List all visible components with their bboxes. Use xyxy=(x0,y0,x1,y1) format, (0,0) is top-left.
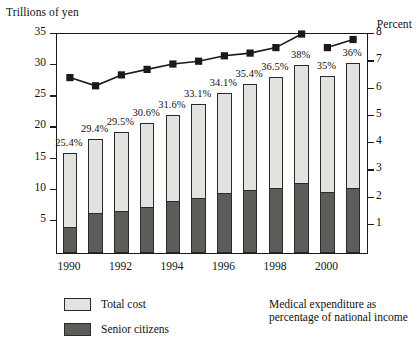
legend-label-line-2: percentage of national income xyxy=(269,311,408,324)
legend-swatch-senior-citizens xyxy=(64,323,91,336)
y-tick-label-left: 20 xyxy=(18,118,46,130)
y-tick-label-right: 4 xyxy=(376,134,402,146)
legend-swatch-total-cost xyxy=(64,298,91,311)
chart-root: Trillions of yen Percent 5101520253035 1… xyxy=(0,0,418,351)
y-tick-label-right: 1 xyxy=(376,216,402,228)
x-tick-label: 1996 xyxy=(201,260,245,272)
y-axis-title-left: Trillions of yen xyxy=(6,6,79,18)
y-tick-mark-right xyxy=(368,224,374,225)
legend-label-senior-citizens: Senior citizens xyxy=(101,323,169,336)
line-series-marker[interactable] xyxy=(92,82,99,89)
y-tick-mark-right xyxy=(368,197,374,198)
bar-value-label: 33.1% xyxy=(176,88,220,99)
bar-value-label: 35% xyxy=(304,60,348,71)
line-series-marker[interactable] xyxy=(247,50,254,57)
y-tick-label-left: 5 xyxy=(18,212,46,224)
x-tick-label: 1992 xyxy=(98,260,142,272)
legend-label-total-cost: Total cost xyxy=(101,298,146,311)
bar-value-label: 36% xyxy=(330,47,374,58)
line-series-marker[interactable] xyxy=(350,36,357,43)
line-series-marker[interactable] xyxy=(66,74,73,81)
y-tick-label-right: 5 xyxy=(376,107,402,119)
y-tick-label-right: 3 xyxy=(376,161,402,173)
legend: Total cost Senior citizens Medical expen… xyxy=(0,296,418,351)
y-tick-mark-right xyxy=(368,142,374,143)
y-tick-mark-right xyxy=(368,88,374,89)
y-tick-label-left: 35 xyxy=(18,25,46,37)
bar-value-label: 31.6% xyxy=(150,99,194,110)
y-tick-label-left: 25 xyxy=(18,87,46,99)
legend-label-medical-expenditure: Medical expenditure as percentage of nat… xyxy=(269,298,408,324)
bar-value-label: 38% xyxy=(279,49,323,60)
legend-label-line-1: Medical expenditure as xyxy=(269,298,376,310)
y-tick-label-right: 6 xyxy=(376,80,402,92)
legend-item-medical-expenditure: Medical expenditure as percentage of nat… xyxy=(215,298,408,324)
bar-value-label: 25.4% xyxy=(47,137,91,148)
y-tick-label-right: 2 xyxy=(376,189,402,201)
y-tick-label-right: 8 xyxy=(376,25,402,37)
x-tick-label: 1998 xyxy=(253,260,297,272)
line-series-marker[interactable] xyxy=(118,71,125,78)
x-tick-label: 2000 xyxy=(304,260,348,272)
y-tick-mark-right xyxy=(368,169,374,170)
y-tick-mark-right xyxy=(368,60,374,61)
y-tick-label-left: 15 xyxy=(18,150,46,162)
legend-item-senior-citizens: Senior citizens xyxy=(64,323,169,336)
line-series-marker[interactable] xyxy=(298,30,305,37)
y-tick-label-right: 7 xyxy=(376,52,402,64)
bar-value-label: 36.5% xyxy=(253,61,297,72)
line-series-marker[interactable] xyxy=(195,58,202,65)
y-tick-label-left: 30 xyxy=(18,56,46,68)
y-tick-label-left: 10 xyxy=(18,181,46,193)
x-tick-label: 1990 xyxy=(47,260,91,272)
y-tick-mark-right xyxy=(368,115,374,116)
line-series-marker[interactable] xyxy=(144,66,151,73)
x-tick-label: 1994 xyxy=(150,260,194,272)
line-series-marker[interactable] xyxy=(221,52,228,59)
line-series-marker[interactable] xyxy=(169,60,176,67)
y-tick-mark-right xyxy=(368,33,374,34)
legend-item-total-cost: Total cost xyxy=(64,298,146,311)
